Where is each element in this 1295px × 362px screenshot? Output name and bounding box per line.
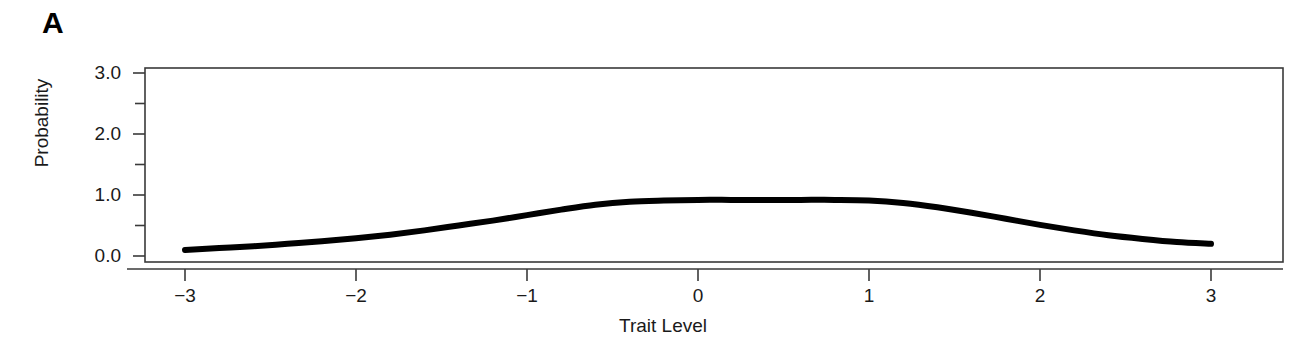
data-series-line — [185, 200, 1211, 250]
x-axis-ticks — [127, 269, 1283, 281]
figure-panel-a: A Probability Trait Level 0.0 1.0 2.0 3.… — [0, 0, 1295, 362]
plot-area — [0, 0, 1295, 362]
y-axis-ticks — [133, 73, 145, 256]
